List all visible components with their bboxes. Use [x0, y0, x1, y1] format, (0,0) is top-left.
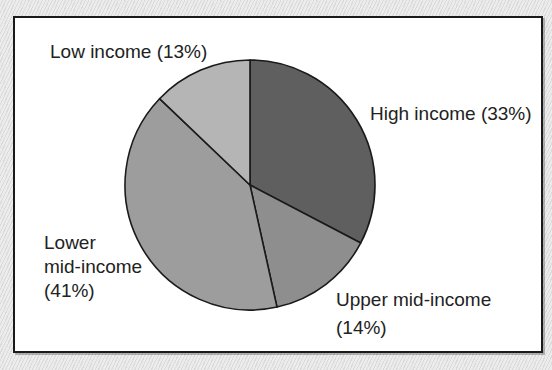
- label-upper-mid-line2: (14%): [336, 317, 387, 338]
- label-high-income: High income (33%): [370, 103, 532, 124]
- label-lower-mid-line2: mid-income: [44, 256, 142, 277]
- pie-slices: [125, 60, 375, 310]
- label-lower-mid-line3: (41%): [44, 280, 95, 301]
- label-low-income: Low income (13%): [50, 41, 207, 62]
- label-upper-mid-line1: Upper mid-income: [336, 289, 491, 310]
- pie-chart: Low income (13%) High income (33%) Lower…: [0, 0, 552, 370]
- label-lower-mid-line1: Lower: [44, 232, 96, 253]
